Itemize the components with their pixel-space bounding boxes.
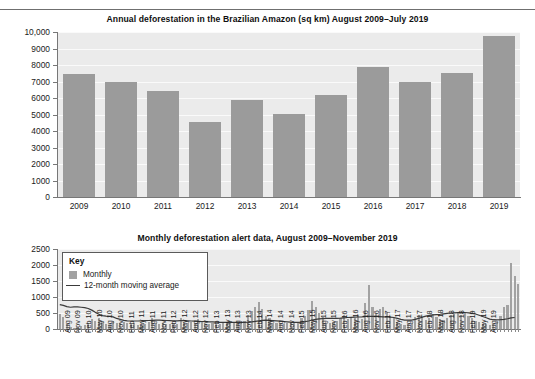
- legend-swatch-icon: [69, 271, 77, 279]
- x-tick-mark: [60, 329, 61, 332]
- x-tick-label-month: May 15: [308, 309, 317, 333]
- x-tick-label-month: Nov 18: [457, 310, 466, 333]
- x-tick-label-month: Feb 13: [212, 311, 221, 333]
- x-axis-line: [57, 197, 521, 198]
- x-tick-label-year: 2014: [268, 201, 310, 211]
- x-tick-label-month: Aug 16: [361, 310, 370, 333]
- legend-label-monthly: Monthly: [83, 270, 112, 279]
- y-tick-mark: [53, 65, 57, 66]
- x-tick-label-month: May 12: [180, 309, 189, 333]
- y-tick-label: 5000: [0, 110, 50, 120]
- gridline: [58, 32, 520, 33]
- chart-page: Annual deforestation in the Brazilian Am…: [0, 0, 535, 379]
- y-tick-mark: [53, 82, 57, 83]
- gridline: [58, 65, 520, 66]
- legend-title: Key: [69, 256, 201, 266]
- bar: [273, 114, 306, 197]
- x-tick-label-month: Feb 17: [383, 311, 392, 333]
- x-tick-label-month: Aug 12: [191, 310, 200, 333]
- legend-entry-monthly: Monthly: [69, 269, 201, 280]
- x-tick-label-year: 2013: [226, 201, 268, 211]
- x-tick-label-month: Aug 10: [105, 310, 114, 333]
- monthly-chart-title: Monthly deforestation alert data, August…: [0, 233, 535, 243]
- bar: [231, 100, 264, 197]
- y-tick-label: 1000: [0, 292, 50, 302]
- y-tick-mark: [53, 98, 57, 99]
- x-tick-label-year: 2016: [352, 201, 394, 211]
- gridline: [58, 49, 520, 50]
- bar: [105, 82, 138, 198]
- x-tick-label-month: May 19: [479, 309, 488, 333]
- x-tick-label-month: Nov 11: [159, 311, 168, 333]
- x-tick-label-year: 2018: [436, 201, 478, 211]
- y-tick-label: 500: [0, 308, 50, 318]
- x-tick-label-year: 2017: [394, 201, 436, 211]
- y-tick-label: 2500: [0, 244, 50, 254]
- x-tick-mark: [508, 329, 509, 332]
- x-tick-label-month: May 10: [95, 309, 104, 333]
- x-tick-label-month: Aug 19: [489, 310, 498, 333]
- x-tick-label-month: Nov 09: [73, 310, 82, 333]
- y-tick-mark: [53, 181, 57, 182]
- annual-deforestation-chart: Annual deforestation in the Brazilian Am…: [0, 14, 535, 226]
- y-tick-mark: [53, 115, 57, 116]
- y-tick-label: 2000: [0, 159, 50, 169]
- y-tick-label: 9000: [0, 44, 50, 54]
- x-tick-label-month: May 16: [351, 309, 360, 333]
- x-tick-label-month: Nov 15: [329, 310, 338, 333]
- x-tick-label-month: May 14: [265, 309, 274, 333]
- x-tick-label-month: Feb 12: [169, 311, 178, 333]
- bar: [189, 122, 222, 197]
- x-tick-mark: [504, 329, 505, 332]
- y-tick-mark: [53, 297, 57, 298]
- x-tick-label-month: Aug 14: [276, 310, 285, 333]
- bar: [399, 82, 432, 197]
- y-tick-mark: [53, 148, 57, 149]
- x-tick-label-month: Nov 13: [244, 310, 253, 333]
- y-axis-line: [57, 32, 58, 198]
- x-tick-mark: [511, 329, 512, 332]
- y-tick-label: 8000: [0, 60, 50, 70]
- x-tick-mark: [515, 329, 516, 332]
- y-tick-label: 7000: [0, 77, 50, 87]
- x-tick-label-month: Feb 19: [468, 311, 477, 333]
- x-tick-label-month: Aug 18: [447, 310, 456, 333]
- y-tick-label: 1000: [0, 176, 50, 186]
- y-tick-mark: [53, 313, 57, 314]
- x-tick-label-month: Feb 10: [84, 311, 93, 333]
- x-tick-label-month: May 17: [393, 309, 402, 333]
- x-tick-label-month: Nov 10: [116, 310, 125, 333]
- y-tick-mark: [53, 197, 57, 198]
- y-tick-mark: [53, 32, 57, 33]
- y-tick-mark: [53, 281, 57, 282]
- y-tick-label: 4000: [0, 126, 50, 136]
- x-tick-label-month: Aug 11: [148, 311, 157, 333]
- y-axis-line: [57, 249, 58, 330]
- x-tick-label-month: Feb 15: [297, 311, 306, 333]
- y-tick-mark: [53, 249, 57, 250]
- x-tick-label-month: May 18: [436, 309, 445, 333]
- monthly-alert-chart: Monthly deforestation alert data, August…: [0, 233, 535, 379]
- y-tick-label: 2000: [0, 260, 50, 270]
- y-tick-mark: [53, 164, 57, 165]
- x-tick-label-year: 2012: [184, 201, 226, 211]
- x-tick-mark: [518, 329, 519, 332]
- y-tick-label: 6000: [0, 93, 50, 103]
- x-tick-label-month: Aug 17: [404, 310, 413, 333]
- x-tick-label-month: May 13: [223, 309, 232, 333]
- y-tick-label: 10,000: [0, 27, 50, 37]
- x-tick-label-month: Nov 16: [372, 310, 381, 333]
- x-tick-label-year: 2019: [478, 201, 520, 211]
- annual-plot-background: [58, 32, 520, 197]
- x-tick-mark: [500, 329, 501, 332]
- x-tick-label-month: Feb 18: [425, 311, 434, 333]
- chart-legend-key: Key Monthly 12-month moving average: [62, 252, 208, 301]
- x-tick-label-month: Nov 14: [287, 310, 296, 333]
- x-tick-label-month: Feb 14: [255, 311, 264, 333]
- y-tick-label: 3000: [0, 143, 50, 153]
- page-top-rule: [0, 9, 535, 10]
- x-tick-label-month: Nov 12: [201, 310, 210, 333]
- y-tick-label: 0: [0, 324, 50, 334]
- y-tick-mark: [53, 265, 57, 266]
- legend-line-icon: [66, 285, 80, 286]
